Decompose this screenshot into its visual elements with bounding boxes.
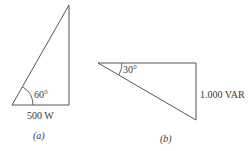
angle-arc-b	[119, 63, 122, 75]
base-label-a: 500 W	[27, 111, 54, 121]
angle-arc-a	[23, 87, 34, 105]
angle-label-b: 30°	[123, 65, 137, 75]
diagram-canvas	[0, 0, 252, 151]
triangle-b	[98, 63, 196, 120]
caption-b: (b)	[160, 134, 172, 144]
side-label-b: 1.000 VAR	[200, 90, 245, 100]
caption-a: (a)	[33, 131, 45, 141]
triangle-b-outline	[98, 63, 196, 120]
angle-label-a: 60°	[34, 90, 48, 100]
